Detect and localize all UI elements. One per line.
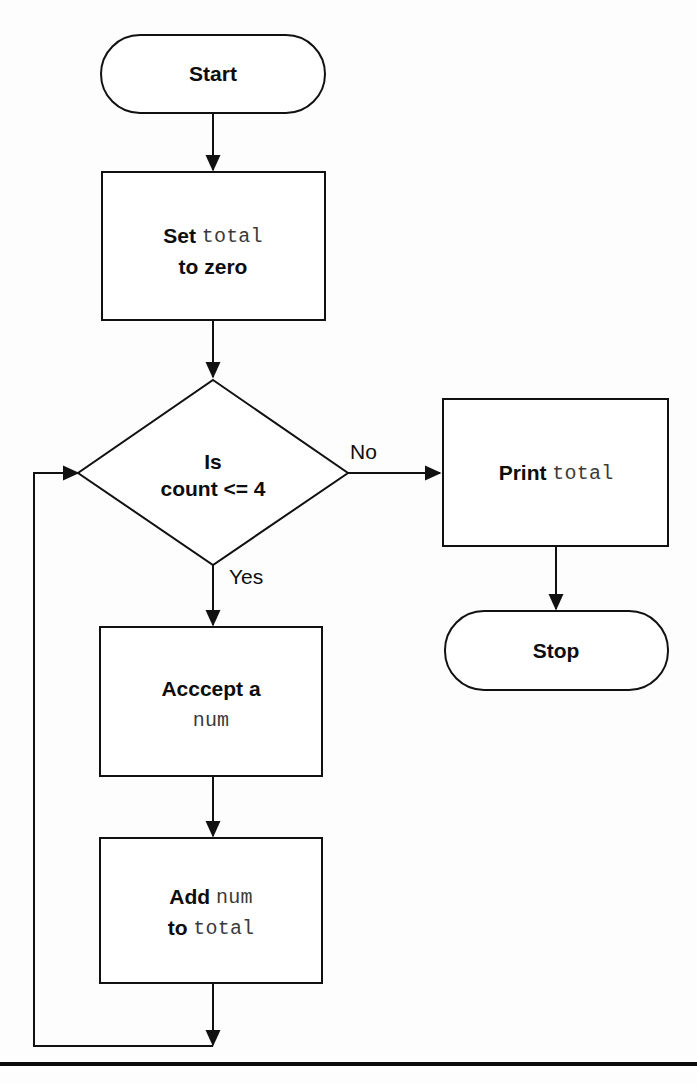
node-add-num-line1: Add num xyxy=(169,885,252,910)
node-start-label: Start xyxy=(189,62,237,85)
node-add-num-line1-mono: num xyxy=(216,886,253,909)
node-print-total-plain: Print xyxy=(499,461,553,484)
node-accept-num[interactable] xyxy=(100,627,322,776)
node-set-total-line2: to zero xyxy=(179,255,248,278)
node-print-total-label: Print total xyxy=(499,461,614,486)
node-set-total-line1: Set total xyxy=(163,224,263,249)
node-stop-label: Stop xyxy=(533,639,580,662)
node-decision-line1: Is xyxy=(204,450,222,473)
edge-label-no: No xyxy=(350,440,377,463)
node-add-num-line2-plain: to xyxy=(168,916,194,939)
node-add-num-line2-mono: total xyxy=(193,917,254,940)
node-set-total-line1-plain: Set xyxy=(163,224,202,247)
flowchart-page: Start Set total to zero Is count <= 4 No… xyxy=(0,0,697,1084)
edge-label-yes: Yes xyxy=(229,565,263,588)
node-accept-num-line2: num xyxy=(193,709,230,732)
node-accept-num-line1: Acccept a xyxy=(161,677,261,700)
flowchart-canvas: Start Set total to zero Is count <= 4 No… xyxy=(0,0,697,1084)
node-add-num-line2: to total xyxy=(168,916,255,941)
node-set-total-line1-mono: total xyxy=(202,225,263,248)
node-add-num-line1-plain: Add xyxy=(169,885,216,908)
node-print-total-mono: total xyxy=(552,462,613,485)
node-add-num[interactable] xyxy=(100,838,322,983)
node-decision-line2: count <= 4 xyxy=(160,477,265,500)
